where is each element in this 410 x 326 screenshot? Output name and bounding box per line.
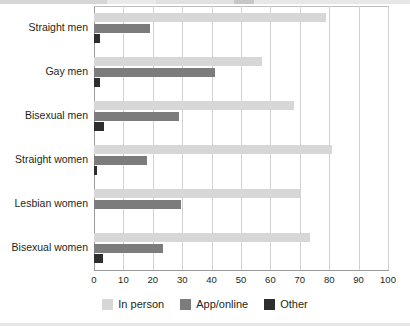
bar-other-straight-women bbox=[94, 166, 97, 175]
category-label-bisexual-women: Bisexual women bbox=[0, 241, 88, 253]
bar-in-person-bisexual-women bbox=[94, 233, 310, 242]
bar-group bbox=[94, 182, 388, 226]
bar-group bbox=[94, 226, 388, 270]
bar-group bbox=[94, 50, 388, 94]
legend-swatch-in-person bbox=[102, 299, 113, 310]
x-tick-50: 50 bbox=[236, 274, 247, 285]
bar-in-person-straight-women bbox=[94, 145, 332, 154]
bar-group bbox=[94, 138, 388, 182]
x-tick-20: 20 bbox=[148, 274, 159, 285]
x-tick-0: 0 bbox=[91, 274, 96, 285]
category-label-gay-men: Gay men bbox=[0, 65, 88, 77]
x-tick-60: 60 bbox=[265, 274, 276, 285]
bar-app-online-lesbian-women bbox=[94, 200, 181, 209]
x-tick-10: 10 bbox=[118, 274, 129, 285]
bar-app-online-gay-men bbox=[94, 68, 215, 77]
category-axis-labels: Straight menGay menBisexual menStraight … bbox=[0, 6, 88, 270]
category-label-lesbian-women: Lesbian women bbox=[0, 197, 88, 209]
bar-chart: Straight menGay menBisexual menStraight … bbox=[0, 0, 410, 326]
category-label-straight-men: Straight men bbox=[0, 21, 88, 33]
x-tick-70: 70 bbox=[295, 274, 306, 285]
legend-swatch-app-online bbox=[180, 299, 191, 310]
bar-in-person-gay-men bbox=[94, 57, 262, 66]
x-tick-40: 40 bbox=[206, 274, 217, 285]
legend-swatch-other bbox=[264, 299, 275, 310]
bar-in-person-bisexual-men bbox=[94, 101, 294, 110]
category-label-bisexual-men: Bisexual men bbox=[0, 109, 88, 121]
x-tick-90: 90 bbox=[353, 274, 364, 285]
bar-other-bisexual-men bbox=[94, 122, 104, 131]
bar-group bbox=[94, 6, 388, 50]
category-label-straight-women: Straight women bbox=[0, 153, 88, 165]
bar-other-gay-men bbox=[94, 78, 100, 87]
legend-label: App/online bbox=[196, 298, 248, 310]
legend-item-other[interactable]: Other bbox=[264, 298, 308, 310]
x-tick-80: 80 bbox=[324, 274, 335, 285]
x-tick-100: 100 bbox=[380, 274, 396, 285]
legend-item-app-online[interactable]: App/online bbox=[180, 298, 248, 310]
bars-layer bbox=[94, 6, 388, 270]
bar-app-online-straight-women bbox=[94, 156, 147, 165]
bar-app-online-straight-men bbox=[94, 24, 150, 33]
bar-other-bisexual-women bbox=[94, 254, 103, 263]
bar-other-straight-men bbox=[94, 34, 100, 43]
bar-group bbox=[94, 94, 388, 138]
bar-in-person-straight-men bbox=[94, 13, 326, 22]
bar-app-online-bisexual-men bbox=[94, 112, 179, 121]
x-tick-30: 30 bbox=[177, 274, 188, 285]
bar-in-person-lesbian-women bbox=[94, 189, 300, 198]
legend-label: In person bbox=[118, 298, 164, 310]
x-axis-line bbox=[94, 270, 389, 271]
scan-artifact-top bbox=[0, 0, 410, 4]
chart-legend: In personApp/onlineOther bbox=[0, 298, 410, 310]
gridline-100 bbox=[388, 6, 389, 270]
bar-app-online-bisexual-women bbox=[94, 244, 163, 253]
legend-item-in-person[interactable]: In person bbox=[102, 298, 164, 310]
legend-label: Other bbox=[280, 298, 308, 310]
